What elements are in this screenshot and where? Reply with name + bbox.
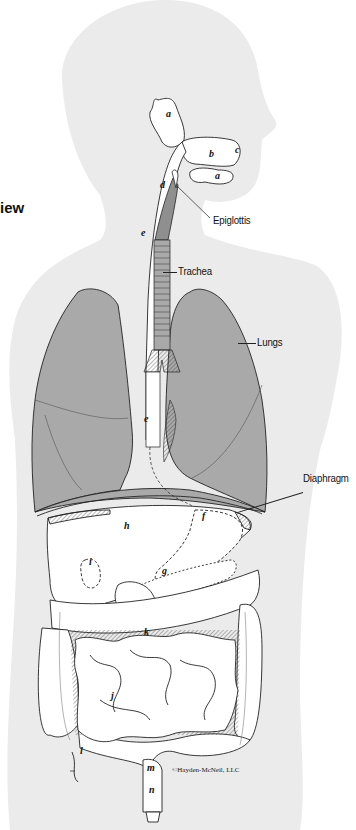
letter-h: h [124, 520, 130, 531]
leader-line-trachea [163, 272, 177, 273]
copyright-notice: ©Hayden-McNeil, LLC [172, 766, 240, 774]
label-diaphragm: Diaphragm [303, 472, 349, 484]
label-lungs: Lungs [257, 336, 283, 348]
letter-c: c [235, 144, 239, 155]
label-trachea: Trachea [178, 265, 212, 277]
anatomy-illustration [0, 0, 356, 830]
letter-j: j [111, 690, 114, 701]
letter-l: l [80, 745, 83, 756]
heading-fragment: iew [0, 199, 24, 216]
letter-k: k [144, 626, 149, 637]
letter-b: b [209, 148, 214, 159]
sublingual-gland [190, 168, 233, 184]
leader-line-lungs [238, 343, 256, 344]
letter-f: f [202, 510, 205, 521]
letter-m: m [147, 762, 155, 773]
digestive-system-diagram: iew Epiglottis Trachea Lungs Diaphragm a… [0, 0, 356, 830]
letter-a-sublingual: a [215, 170, 220, 181]
letter-d: d [160, 179, 165, 190]
small-intestine [70, 630, 240, 742]
letter-e-lower: e [144, 413, 148, 424]
letter-e-upper: e [141, 227, 145, 238]
letter-a-parotid: a [166, 108, 171, 119]
letter-n: n [149, 784, 155, 795]
letter-g: g [162, 565, 167, 576]
letter-i: i [89, 556, 92, 567]
anus [146, 812, 160, 822]
label-epiglottis: Epiglottis [213, 214, 251, 226]
